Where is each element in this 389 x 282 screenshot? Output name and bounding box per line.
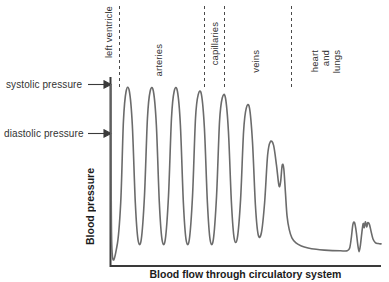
diastolic-pressure-label: diastolic pressure <box>4 128 84 139</box>
region-label-capillaries: capillaries <box>210 22 220 65</box>
region-dividers <box>120 6 292 88</box>
annotation-arrows <box>88 81 111 137</box>
region-label-and: and <box>321 50 331 66</box>
region-label-heart: heart <box>310 50 320 72</box>
blood-pressure-curve <box>111 85 381 261</box>
region-label-left-ventricle: left ventricle <box>104 6 114 58</box>
region-label-arteries: arteries <box>154 44 164 76</box>
region-label-lungs: lungs <box>332 50 342 73</box>
systolic-pressure-label: systolic pressure <box>6 79 82 90</box>
region-label-veins: veins <box>251 50 261 73</box>
y-axis-label: Blood pressure <box>84 168 96 245</box>
axes <box>110 77 381 267</box>
x-axis-label: Blood flow through circulatory system <box>110 268 381 280</box>
